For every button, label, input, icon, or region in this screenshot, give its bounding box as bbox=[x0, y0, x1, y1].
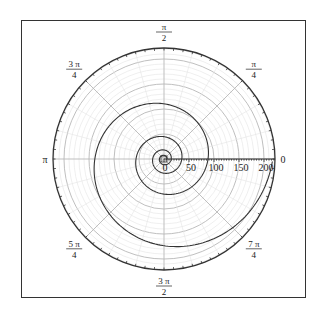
radial-tick-label: 0 bbox=[163, 162, 168, 173]
angle-label-numerator: 5 π bbox=[69, 239, 81, 249]
radial-tick-label: 50 bbox=[186, 162, 196, 173]
angle-label-180: π bbox=[42, 154, 47, 165]
angle-label-45: π4 bbox=[246, 59, 262, 80]
minor-spoke bbox=[68, 159, 164, 215]
major-spoke bbox=[164, 159, 242, 237]
angle-label-numerator: 7 π bbox=[248, 239, 260, 249]
angle-label-270: 3 π2 bbox=[156, 276, 172, 297]
major-spoke bbox=[86, 159, 164, 237]
angle-label-numerator: 3 π bbox=[69, 59, 81, 69]
minor-spoke bbox=[164, 52, 193, 159]
angle-label-numerator: π bbox=[162, 22, 167, 32]
angle-label-denominator: 2 bbox=[162, 287, 167, 297]
angle-label-denominator: 4 bbox=[72, 250, 77, 260]
angle-label-text: π bbox=[42, 154, 47, 165]
angle-label-denominator: 2 bbox=[162, 33, 167, 43]
rim-tick bbox=[262, 112, 264, 113]
minor-spoke bbox=[135, 159, 164, 266]
minor-spoke bbox=[109, 159, 165, 255]
major-spoke bbox=[164, 81, 242, 159]
angle-label-135: 3 π4 bbox=[66, 59, 82, 80]
angle-label-225: 5 π4 bbox=[66, 239, 82, 260]
minor-spoke bbox=[164, 159, 193, 266]
minor-spoke bbox=[164, 63, 220, 159]
angle-label-denominator: 4 bbox=[252, 70, 257, 80]
angle-label-315: 7 π4 bbox=[246, 239, 262, 260]
angle-label-90: π2 bbox=[156, 22, 172, 43]
rim-tick bbox=[63, 205, 65, 206]
rim-tick bbox=[210, 257, 211, 259]
radial-tick-label: 150 bbox=[234, 162, 249, 173]
angle-label-text: 0 bbox=[281, 154, 286, 165]
minor-spoke bbox=[57, 130, 164, 159]
angle-label-numerator: π bbox=[252, 59, 257, 69]
angle-label-denominator: 4 bbox=[72, 70, 77, 80]
minor-spoke bbox=[164, 159, 220, 255]
minor-spoke bbox=[164, 130, 271, 159]
rim-tick bbox=[63, 112, 65, 113]
rim-tick bbox=[262, 205, 264, 206]
minor-spoke bbox=[164, 104, 260, 160]
minor-spoke bbox=[109, 63, 165, 159]
polar-plot: 050100150200 0π4π23 π4π5 π43 π27 π4 bbox=[0, 0, 327, 316]
minor-spoke bbox=[68, 104, 164, 160]
rim-tick bbox=[117, 58, 118, 60]
angle-label-0: 0 bbox=[281, 154, 286, 165]
angle-label-numerator: 3 π bbox=[158, 276, 170, 286]
radial-tick-label: 200 bbox=[259, 162, 274, 173]
minor-spoke bbox=[57, 159, 164, 188]
radial-tick-label: 100 bbox=[209, 162, 224, 173]
rim-tick bbox=[210, 58, 211, 60]
rim-tick bbox=[117, 257, 118, 259]
angle-label-denominator: 4 bbox=[252, 250, 257, 260]
